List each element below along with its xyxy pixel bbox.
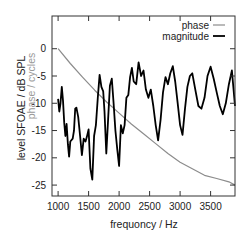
legend-label-phase: phase xyxy=(182,20,210,31)
y-axis-ticks: 0-5-10-15-20-25 xyxy=(32,43,235,190)
y-axis-title-secondary: phase / cycles xyxy=(25,53,37,120)
plot-frame xyxy=(52,16,235,196)
series-phase xyxy=(58,49,235,185)
x-tick-label: 2000 xyxy=(108,201,131,212)
chart: 100015002000250030003500 0-5-10-15-20-25… xyxy=(0,0,248,237)
y-tick-label: -25 xyxy=(32,180,47,191)
x-tick-label: 1000 xyxy=(47,201,70,212)
x-axis-title: frequoncy / Hz xyxy=(110,218,178,230)
y-tick-label: -5 xyxy=(37,71,46,82)
y-axis-title-secondary-group: phase / cycles xyxy=(25,53,37,120)
x-tick-label: 3000 xyxy=(169,201,192,212)
plot-lines xyxy=(58,49,235,185)
x-tick-label: 3500 xyxy=(199,201,222,212)
x-axis-ticks: 100015002000250030003500 xyxy=(47,16,222,212)
x-tick-label: 1500 xyxy=(77,201,100,212)
legend: phase magnitude xyxy=(162,20,225,42)
x-tick-label: 2500 xyxy=(138,201,161,212)
y-tick-label: 0 xyxy=(40,43,46,54)
y-tick-label: -15 xyxy=(32,125,47,136)
legend-label-magnitude: magnitude xyxy=(162,31,209,42)
y-tick-label: -20 xyxy=(32,152,47,163)
